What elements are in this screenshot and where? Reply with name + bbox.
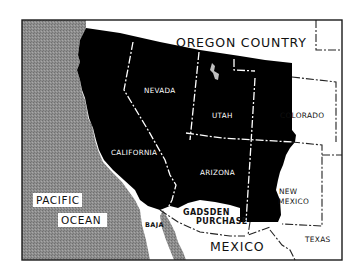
- label-utah: UTAH: [212, 111, 233, 120]
- label-nevada: NEVADA: [144, 86, 175, 95]
- label-pacific: PACIFIC: [36, 194, 80, 206]
- label-oregon-country: OREGON COUNTRY: [176, 35, 307, 50]
- gulf-of-california: [160, 210, 186, 260]
- label-california: CALIFORNIA: [111, 148, 157, 157]
- label-new-mexico-1: NEW: [279, 187, 298, 196]
- label-colorado: COLORADO: [280, 111, 324, 120]
- label-texas: TEXAS: [304, 235, 331, 244]
- label-gadsden-2: PURCHASE: [196, 217, 248, 226]
- mexican-cession-map: OREGON COUNTRY NEVADA UTAH COLORADO CALI…: [0, 0, 361, 279]
- label-mexico: MEXICO: [210, 239, 264, 254]
- label-baja: BAJA: [145, 221, 164, 229]
- label-new-mexico-2: MEXICO: [278, 197, 309, 206]
- label-ocean: OCEAN: [61, 214, 101, 226]
- label-arizona: ARIZONA: [200, 168, 235, 177]
- label-gadsden-1: GADSDEN: [183, 208, 230, 217]
